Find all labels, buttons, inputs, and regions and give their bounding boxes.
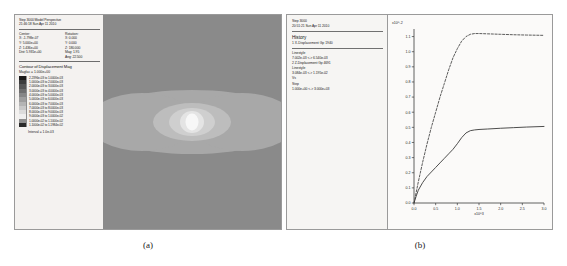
y-axis-tick-label: 0.5 bbox=[406, 126, 411, 130]
panel-b-timestamp: 20:51:21 Sun Apr 11 2010 bbox=[292, 24, 383, 29]
y-axis-tick-label: 0.0 bbox=[406, 201, 411, 205]
x-axis-tick-label: 2.5 bbox=[520, 207, 525, 211]
y-axis-tick-label: 1.0 bbox=[406, 50, 411, 54]
figure-container: Step 3000 Model Perspective 21:46:18 Sun… bbox=[0, 0, 567, 266]
y-axis-tick-label: 0.1 bbox=[406, 186, 411, 190]
rotation-ang: Ang: 22.500 bbox=[65, 55, 100, 60]
panel-b-history-plot: Step 3000 20:51:21 Sun Apr 11 2010 Histo… bbox=[286, 14, 553, 230]
x-axis-tick-label: 1.0 bbox=[455, 207, 460, 211]
y-axis-tick-label: 0.7 bbox=[406, 95, 411, 99]
y-axis-tick-label: 0.9 bbox=[406, 65, 411, 69]
y-axis-tick-label: 0.6 bbox=[406, 111, 411, 115]
panel-b-info-sidebar: Step 3000 20:51:21 Sun Apr 11 2010 Histo… bbox=[286, 14, 388, 230]
panel-a-divider-1 bbox=[19, 29, 100, 30]
panel-a-center-rotation-table: Center: Rotation: X: -1.798e-07 X: 0.000… bbox=[19, 32, 100, 60]
y-axis-tick-label: 0.3 bbox=[406, 156, 411, 160]
panel-a-info-sidebar: Step 3000 Model Perspective 21:46:18 Sun… bbox=[15, 15, 103, 229]
panel-a-contour-plot: Step 3000 Model Perspective 21:46:18 Sun… bbox=[14, 14, 282, 230]
contour-interval-label: Interval = 1.0e-03 bbox=[19, 129, 100, 135]
x-axis-tick-label: 3.0 bbox=[542, 207, 547, 211]
x-axis-tick-label: 1.5 bbox=[477, 207, 482, 211]
y-axis-tick-label: 1.1 bbox=[406, 35, 411, 39]
chart-series-line bbox=[414, 126, 544, 203]
caption-a: (a) bbox=[118, 240, 178, 250]
panel-b-divider-2 bbox=[292, 48, 383, 49]
x-axis-tick-label: 2.0 bbox=[498, 207, 503, 211]
x-axis-exponent: x10^3 bbox=[474, 212, 483, 216]
legend-label: 1.1000e-02 to 1.1984e-02 bbox=[27, 123, 63, 127]
caption-b: (b) bbox=[390, 240, 450, 250]
x-axis-tick-label: 0.5 bbox=[433, 207, 438, 211]
contour-legend: 2.2396e-03 to 1.0000e-031.0000e-03 to 2.… bbox=[19, 76, 100, 128]
center-spacer bbox=[19, 55, 63, 60]
step-range: 1.000e+00 <-> 3.000e+03 bbox=[292, 87, 383, 92]
history-heading: History bbox=[292, 34, 383, 41]
history-chart[interactable]: x10^-20.00.10.20.30.40.50.60.70.80.91.01… bbox=[388, 14, 553, 230]
magfac-label: Magfac = 1.000e+00 bbox=[19, 70, 100, 75]
legend-row: 1.1000e-02 to 1.1984e-02 bbox=[19, 123, 100, 127]
history-chart-svg: x10^-20.00.10.20.30.40.50.60.70.80.91.01… bbox=[388, 15, 552, 229]
y-axis-exponent: x10^-2 bbox=[392, 21, 403, 25]
x-axis-tick-label: 0.0 bbox=[412, 207, 417, 211]
panel-b-divider-1 bbox=[292, 31, 383, 32]
y-axis-tick-label: 0.2 bbox=[406, 171, 411, 175]
chart-series-line bbox=[414, 34, 544, 203]
legend-swatch bbox=[19, 123, 27, 127]
y-axis-tick-label: 0.4 bbox=[406, 141, 411, 145]
panel-a-timestamp: 21:46:18 Sun Apr 11 2010 bbox=[19, 22, 100, 26]
history-item-1: 1 X-Displacement Gp 1940 bbox=[292, 41, 383, 46]
contour-viewport[interactable] bbox=[103, 15, 281, 229]
panel-a-divider-2 bbox=[19, 61, 100, 62]
contour-band-peak bbox=[186, 114, 199, 131]
y-axis-tick-label: 0.8 bbox=[406, 80, 411, 84]
